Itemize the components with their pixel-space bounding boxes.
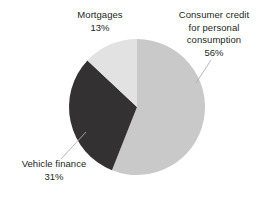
pie-label-vehicle-finance-name: Vehicle finance	[2, 158, 106, 171]
pie-label-consumer-credit-value: 56%	[158, 47, 270, 60]
pie-label-mortgages: Mortgages 13%	[48, 9, 152, 34]
leader-line-consumer-credit	[196, 60, 211, 83]
pie-label-consumer-credit-line3: consumption	[158, 34, 270, 47]
pie-label-consumer-credit-line1: Consumer credit	[158, 9, 270, 22]
pie-label-mortgages-value: 13%	[48, 22, 152, 35]
pie-label-vehicle-finance: Vehicle finance 31%	[2, 158, 106, 183]
pie-label-consumer-credit: Consumer credit for personal consumption…	[158, 9, 270, 59]
pie-label-vehicle-finance-value: 31%	[2, 171, 106, 184]
pie-label-consumer-credit-line2: for personal	[158, 22, 270, 35]
pie-label-mortgages-name: Mortgages	[48, 9, 152, 22]
pie-chart-figure: Consumer credit for personal consumption…	[0, 0, 272, 200]
